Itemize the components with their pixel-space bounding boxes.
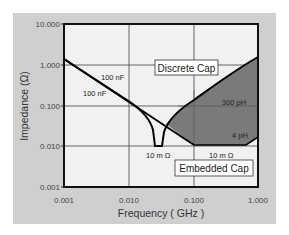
x-axis-label: Frequency ( GHz ) [118,207,204,219]
embedded-cap-label: Embedded Cap [179,163,249,174]
x-tick-1: 1.000 [248,196,269,205]
annotation-10mohm-discrete: 10 m Ω [146,151,171,160]
x-tick-0.001: 0.001 [54,196,75,205]
x-tick-0.01: 0.010 [119,196,140,205]
y-axis-label: Impedance (Ω) [18,71,30,141]
x-tick-0.1: 0.100 [184,196,205,205]
impedance-chart: 10.000 1.000 0.100 0.010 0.001 0.001 0.0… [0,0,289,235]
y-tick-10: 10.000 [36,20,61,29]
y-tick-0.1: 0.100 [40,102,61,111]
annotation-4ph: 4 pH [232,131,248,140]
annotation-100nf-lower: 100 nF [83,89,107,98]
y-tick-0.001: 0.001 [40,183,61,192]
discrete-cap-label: Discrete Cap [158,63,216,74]
annotation-300ph: 300 pH [222,98,246,107]
y-tick-0.01: 0.010 [40,142,61,151]
y-tick-1: 1.000 [40,61,61,70]
annotation-100nf-upper: 100 nF [101,73,125,82]
annotation-10mohm-embedded: 10 m Ω [209,151,234,160]
